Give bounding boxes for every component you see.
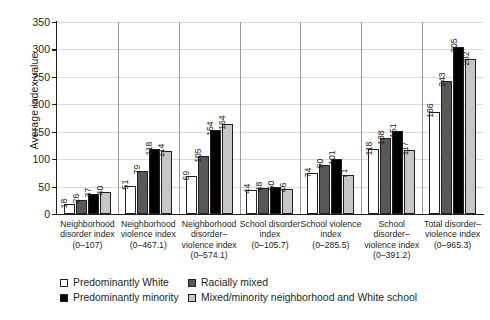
bar-chart: Average index value 05010015020025030035…: [0, 0, 490, 320]
bar[interactable]: 48: [258, 188, 269, 214]
bar-value-label: 105: [195, 148, 204, 162]
bar-value-label: 44: [243, 184, 252, 194]
bar[interactable]: 186: [429, 112, 440, 214]
bar[interactable]: 69: [186, 176, 197, 214]
legend-item-mixed-minority-white-school[interactable]: Mixed/minority neighborhood and White sc…: [188, 292, 417, 304]
bar-value-label: 69: [183, 170, 192, 180]
legend-swatch-icon: [188, 279, 196, 287]
category-range: (0–105.7): [240, 240, 301, 250]
bar-value-label: 90: [316, 159, 325, 169]
bar[interactable]: 117: [404, 150, 415, 214]
x-axis-category-label: Neighborhood disorder–violence index(0–5…: [179, 219, 240, 261]
bar[interactable]: 118: [368, 149, 379, 214]
x-axis-category-label: School disorder index(0–105.7): [240, 219, 301, 250]
bar[interactable]: 37: [88, 194, 99, 214]
bar-group-bars: 69105154164: [179, 22, 240, 214]
group-separator: [422, 22, 423, 214]
x-axis-category-label: Neighborhood disorder index(0–107): [57, 219, 118, 250]
bar-value-label: 37: [85, 188, 94, 198]
bar[interactable]: 101: [331, 159, 342, 214]
category-range: (0–574.1): [179, 250, 240, 260]
category-name: Neighborhood disorder–violence index: [182, 219, 237, 250]
bar-value-label: 305: [450, 39, 459, 53]
x-axis-category-label: School disorder–violence index(0–391.2): [361, 219, 422, 261]
group-separator: [240, 22, 241, 214]
category-range: (0–467.1): [118, 240, 179, 250]
bar-group-bars: 18263740: [57, 22, 118, 214]
bar[interactable]: 305: [453, 47, 464, 214]
bar[interactable]: 164: [222, 124, 233, 214]
y-axis-tick-label: 300: [32, 44, 50, 55]
bar-value-label: 46: [279, 183, 288, 193]
y-axis-tick-label: 350: [32, 17, 50, 28]
group-separator: [118, 22, 119, 214]
bar[interactable]: 114: [161, 151, 172, 214]
bar-value-label: 74: [304, 168, 313, 178]
bar-value-label: 154: [207, 121, 216, 135]
bar-group: 186243305282: [422, 22, 483, 214]
y-axis-tick-label: 100: [32, 154, 50, 165]
bar[interactable]: 26: [76, 200, 87, 214]
legend-swatch-icon: [60, 279, 68, 287]
category-range: (0–285.5): [300, 240, 361, 250]
bar[interactable]: 138: [380, 138, 391, 214]
category-name: Total disorder–violence index: [424, 219, 481, 239]
legend-label: Predominantly minority: [73, 292, 179, 304]
bar-group: 18263740: [57, 22, 118, 214]
bar-group: 44485046: [240, 22, 301, 214]
category-range: (0–965.3): [422, 240, 483, 250]
x-axis-category-label: Total disorder–violence index(0–965.3): [422, 219, 483, 250]
category-name: School disorder index: [240, 219, 300, 239]
bar-value-label: 50: [267, 181, 276, 191]
x-axis-category-label: School violence index(0–285.5): [300, 219, 361, 250]
legend-item-predominantly-white[interactable]: Predominantly White: [60, 277, 188, 289]
bar-value-label: 48: [255, 182, 264, 192]
legend-label: Predominantly White: [73, 277, 169, 289]
legend-item-predominantly-minority[interactable]: Predominantly minority: [60, 292, 188, 304]
bar[interactable]: 154: [210, 130, 221, 214]
bar-value-label: 51: [122, 180, 131, 190]
legend-item-racially-mixed[interactable]: Racially mixed: [188, 277, 268, 289]
bar[interactable]: 18: [64, 204, 75, 214]
bar-group: 118138151117: [361, 22, 422, 214]
category-name: Neighborhood disorder index: [60, 219, 115, 239]
chart-legend: Predominantly White Racially mixed Predo…: [60, 277, 480, 307]
bar[interactable]: 79: [137, 171, 148, 214]
legend-label: Mixed/minority neighborhood and White sc…: [201, 292, 417, 304]
x-axis-category-labels: Neighborhood disorder index(0–107)Neighb…: [57, 219, 483, 271]
bar-value-label: 282: [462, 51, 471, 65]
legend-row: Predominantly White Racially mixed: [60, 277, 480, 289]
x-axis-category-label: Neighborhood violence index(0–467.1): [118, 219, 179, 250]
bar[interactable]: 282: [465, 59, 476, 214]
bar-value-label: 164: [219, 116, 228, 130]
bar-value-label: 117: [401, 142, 410, 156]
bar[interactable]: 90: [319, 165, 330, 214]
bar[interactable]: 44: [246, 190, 257, 214]
category-name: School disorder–violence index: [364, 219, 419, 250]
legend-row: Predominantly minority Mixed/minority ne…: [60, 292, 480, 304]
bar-value-label: 118: [146, 141, 155, 155]
y-axis-tick: [52, 214, 57, 215]
bar-value-label: 18: [61, 198, 70, 208]
bar[interactable]: 74: [307, 173, 318, 214]
plot-area: 0501001502002503003501826374051791181146…: [57, 22, 483, 214]
bar[interactable]: 51: [125, 186, 136, 214]
group-separator: [300, 22, 301, 214]
bar-group: 749010171: [300, 22, 361, 214]
bar-group: 5179118114: [118, 22, 179, 214]
bar[interactable]: 118: [149, 149, 160, 214]
bar[interactable]: 105: [198, 156, 209, 214]
bar-value-label: 79: [134, 165, 143, 175]
bar[interactable]: 40: [100, 192, 111, 214]
y-axis-tick-label: 150: [32, 126, 50, 137]
y-axis-tick-label: 200: [32, 99, 50, 110]
bar-value-label: 101: [328, 150, 337, 164]
bar[interactable]: 243: [441, 81, 452, 214]
bar[interactable]: 71: [343, 175, 354, 214]
category-range: (0–391.2): [361, 250, 422, 260]
bar-group-bars: 749010171: [300, 22, 361, 214]
group-separator: [179, 22, 180, 214]
bar[interactable]: 46: [282, 189, 293, 214]
legend-swatch-icon: [188, 294, 196, 302]
legend-swatch-icon: [60, 294, 68, 302]
